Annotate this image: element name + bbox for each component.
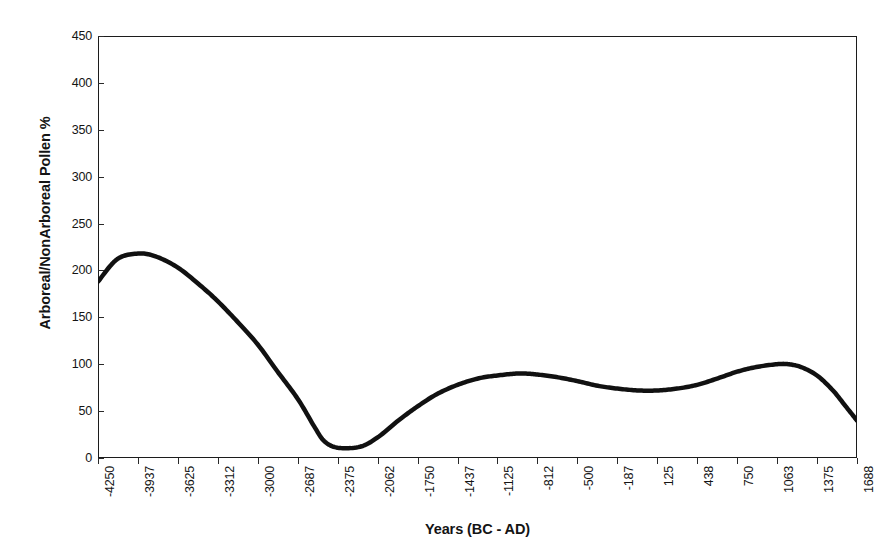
x-tick-label: -2062 xyxy=(383,466,397,497)
x-tick-mark xyxy=(497,458,498,464)
y-tick-mark xyxy=(98,177,104,178)
y-tick-label: 50 xyxy=(48,404,92,418)
y-tick-label: 150 xyxy=(48,310,92,324)
x-tick-label: -1125 xyxy=(502,466,516,496)
y-tick-label: 200 xyxy=(48,263,92,277)
x-tick-label: 750 xyxy=(742,466,756,486)
y-tick-label: 100 xyxy=(48,357,92,371)
y-tick-label: 0 xyxy=(48,451,92,465)
x-tick-label: -2375 xyxy=(343,466,357,497)
x-tick-mark xyxy=(697,458,698,464)
y-axis-tick-labels: 050100150200250300350400450 xyxy=(40,0,92,555)
x-tick-mark xyxy=(418,458,419,464)
x-tick-mark xyxy=(98,458,99,464)
x-tick-mark xyxy=(458,458,459,464)
x-tick-mark xyxy=(218,458,219,464)
y-tick-label: 450 xyxy=(48,29,92,43)
x-tick-label: -3937 xyxy=(143,466,157,497)
x-tick-label: -1750 xyxy=(423,466,437,497)
y-tick-mark xyxy=(98,364,104,365)
x-tick-label: 1688 xyxy=(862,466,876,493)
x-tick-label: -3312 xyxy=(223,466,237,497)
x-tick-mark xyxy=(378,458,379,464)
chart-figure: Arboreal/NonArboreal Pollen % 0501001502… xyxy=(0,0,884,555)
x-tick-label: -812 xyxy=(542,466,556,490)
x-tick-mark xyxy=(338,458,339,464)
x-tick-label: 438 xyxy=(702,466,716,486)
x-axis-title: Years (BC - AD) xyxy=(98,521,857,537)
x-tick-label: 125 xyxy=(662,466,676,486)
y-tick-mark xyxy=(98,224,104,225)
x-tick-label: -187 xyxy=(622,466,636,490)
x-tick-label: -2687 xyxy=(303,466,317,497)
x-tick-mark xyxy=(258,458,259,464)
plot-area xyxy=(98,36,857,458)
x-tick-label: -4250 xyxy=(103,466,117,497)
y-tick-mark xyxy=(98,83,104,84)
x-tick-label: -500 xyxy=(582,466,596,490)
y-tick-mark xyxy=(98,36,104,37)
x-tick-label: -1437 xyxy=(463,466,477,497)
x-tick-mark xyxy=(178,458,179,464)
y-tick-mark xyxy=(98,317,104,318)
x-tick-mark xyxy=(138,458,139,464)
y-tick-mark xyxy=(98,270,104,271)
x-tick-mark xyxy=(737,458,738,464)
y-tick-mark xyxy=(98,130,104,131)
x-tick-mark xyxy=(657,458,658,464)
x-tick-mark xyxy=(298,458,299,464)
x-tick-mark xyxy=(777,458,778,464)
x-tick-label: -3625 xyxy=(183,466,197,497)
x-tick-mark xyxy=(817,458,818,464)
y-tick-mark xyxy=(98,411,104,412)
x-tick-label: 1063 xyxy=(782,466,796,493)
y-tick-label: 250 xyxy=(48,217,92,231)
y-tick-label: 400 xyxy=(48,76,92,90)
x-tick-label: 1375 xyxy=(822,466,836,493)
y-tick-label: 300 xyxy=(48,170,92,184)
y-tick-label: 350 xyxy=(48,123,92,137)
x-tick-mark xyxy=(857,458,858,464)
x-tick-mark xyxy=(577,458,578,464)
x-tick-label: -3000 xyxy=(263,466,277,497)
x-tick-mark xyxy=(537,458,538,464)
x-tick-mark xyxy=(617,458,618,464)
